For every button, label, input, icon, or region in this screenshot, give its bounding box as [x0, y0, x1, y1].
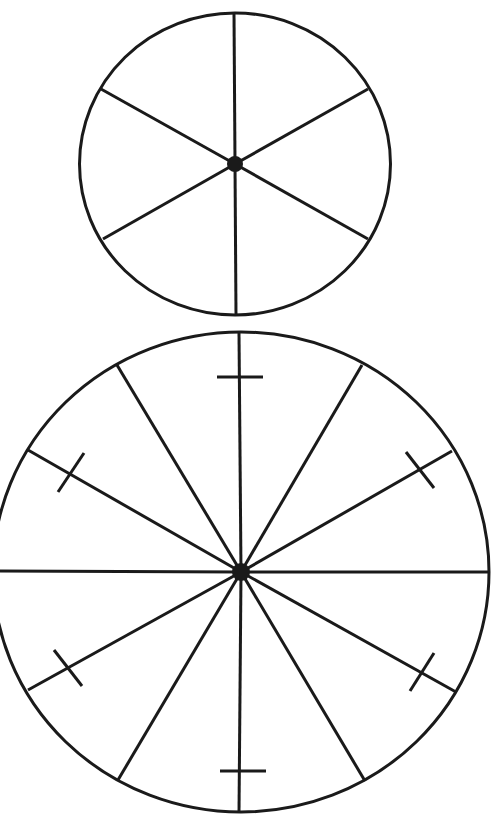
spoke-line: [239, 572, 241, 813]
spoke-line: [239, 333, 241, 572]
spoke-line: [117, 365, 241, 572]
spoke-line: [101, 89, 235, 164]
spoke-line: [0, 571, 241, 572]
spoke-line: [103, 164, 235, 239]
spoke-line: [235, 164, 368, 239]
spoke-line: [241, 365, 362, 572]
tick-mark: [406, 452, 434, 488]
spoke-line: [28, 572, 241, 690]
spoke-line: [235, 164, 236, 315]
spoke-line: [241, 572, 456, 692]
twelve-spoke-wheel: [0, 332, 489, 813]
six-spoke-wheel: [80, 13, 391, 315]
spoked-wheels-diagram: [0, 0, 493, 818]
spoke-line: [235, 89, 368, 164]
hub-dot: [232, 563, 250, 581]
spoke-line: [241, 572, 365, 781]
tick-mark: [58, 453, 84, 492]
spoke-line: [28, 450, 241, 572]
tick-mark: [410, 653, 434, 691]
spoke-line: [234, 13, 235, 164]
hub-dot: [227, 156, 243, 172]
tick-mark: [54, 650, 82, 686]
spoke-line: [118, 572, 241, 780]
